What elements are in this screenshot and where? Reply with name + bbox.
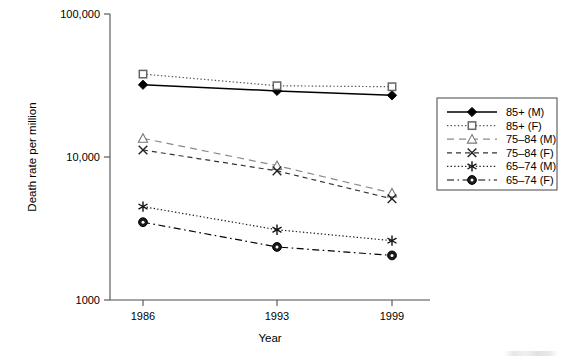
series-line [143, 138, 392, 193]
y-tick-label-10000: 10,000 [66, 151, 100, 163]
legend-label: 65–74 (M) [506, 160, 556, 172]
x-tick-label-1999: 1999 [380, 310, 404, 322]
legend-label: 85+ (M) [506, 106, 544, 118]
y-tick-label-100000: 100,000 [60, 8, 100, 20]
legend-label: 75–84 (M) [506, 133, 556, 145]
y-axis-title: Death rate per million [26, 102, 38, 211]
data-point-marker-filled-circle-ring [468, 176, 477, 185]
series-0 [138, 80, 396, 100]
scan-artifact [504, 351, 558, 356]
data-point-marker-open-square [273, 82, 280, 89]
series-line [143, 207, 392, 241]
series-5 [139, 218, 397, 260]
data-point-marker-open-triangle [138, 134, 147, 143]
chart-container: 100,000 10,000 1000 1986 1993 1999 Death… [0, 0, 562, 359]
line-chart: 100,000 10,000 1000 1986 1993 1999 Death… [0, 0, 562, 359]
series-line [143, 85, 392, 96]
series-layer [138, 70, 396, 259]
data-point-marker-open-square [468, 122, 475, 129]
series-2 [138, 134, 396, 197]
legend-label: 75–84 (F) [506, 147, 554, 159]
series-line [143, 150, 392, 199]
x-tick-label-1993: 1993 [265, 310, 289, 322]
data-point-marker-filled-diamond [138, 80, 147, 89]
series-line [143, 74, 392, 87]
legend-label: 65–74 (F) [506, 174, 554, 186]
data-point-marker-filled-circle-ring [388, 251, 397, 260]
series-line [143, 222, 392, 255]
data-point-marker-filled-diamond [387, 91, 396, 100]
data-point-marker-filled-circle-ring [273, 243, 282, 252]
data-point-marker-open-square [388, 83, 395, 90]
series-4 [138, 201, 396, 245]
data-point-marker-asterisk [138, 201, 147, 211]
data-point-marker-open-square [139, 70, 146, 77]
x-tick-label-1986: 1986 [131, 310, 155, 322]
data-point-marker-filled-circle-ring [139, 218, 148, 227]
legend-label: 85+ (F) [506, 120, 542, 132]
series-1 [139, 70, 395, 90]
series-3 [139, 146, 397, 203]
data-point-marker-asterisk [387, 235, 396, 245]
y-tick-label-1000: 1000 [76, 294, 100, 306]
data-point-marker-asterisk [272, 225, 281, 235]
x-axis-title: Year [258, 332, 281, 344]
